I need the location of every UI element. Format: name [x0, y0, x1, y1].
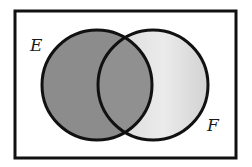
set-e-label: E: [29, 35, 43, 55]
venn-diagram: E F: [0, 0, 252, 167]
set-f-label: F: [206, 115, 220, 135]
